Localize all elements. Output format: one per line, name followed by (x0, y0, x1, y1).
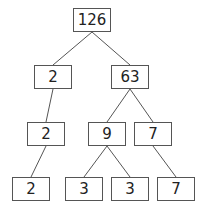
tree-edge (107, 146, 130, 177)
tree-node: 2 (12, 177, 50, 201)
tree-node: 2 (34, 65, 72, 89)
tree-edge (46, 89, 53, 122)
tree-node: 2 (27, 122, 65, 146)
tree-node: 3 (65, 177, 103, 201)
tree-node: 126 (73, 8, 111, 32)
tree-edge (53, 32, 92, 65)
tree-edge (92, 32, 130, 65)
tree-node: 7 (134, 122, 172, 146)
tree-node: 3 (111, 177, 149, 201)
tree-node: 63 (111, 65, 149, 89)
tree-edge (84, 146, 107, 177)
tree-edge (107, 89, 130, 122)
tree-node: 9 (88, 122, 126, 146)
tree-edge (130, 89, 153, 122)
tree-edge (31, 146, 46, 177)
tree-node: 7 (157, 177, 195, 201)
tree-edge (153, 146, 176, 177)
